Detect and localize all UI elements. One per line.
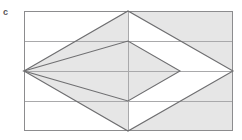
geometry-diagram (0, 0, 242, 140)
figure-container: c (0, 0, 242, 140)
